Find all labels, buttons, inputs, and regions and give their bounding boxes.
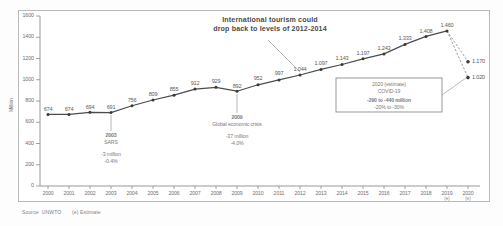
- x-tick-2001: 2001: [58, 191, 80, 197]
- point-label-2004: 756: [119, 97, 145, 103]
- crisis-annotation-year: 2009: [195, 115, 279, 121]
- x-tick-2008: 2008: [205, 191, 227, 197]
- y-axis-label: Million: [9, 98, 15, 112]
- x-tick-2007: 2007: [184, 191, 206, 197]
- estimate-legend-note: (e) Estimate: [72, 210, 101, 216]
- x-tick-2005: 2005: [142, 191, 164, 197]
- point-label-2019: 1.460: [434, 22, 460, 28]
- headline-line-2: drop back to levels of 2012-2014: [190, 26, 350, 34]
- point-label-2020-lower: 1.020: [472, 74, 500, 80]
- x-tick-2014: 2014: [331, 191, 353, 197]
- y-tick-400: 400: [12, 141, 34, 147]
- y-tick-1600: 1600: [12, 13, 34, 19]
- sars-annotation-delta-abs: -3 million: [86, 152, 136, 158]
- x-tick-2017: 2017: [394, 191, 416, 197]
- x-axis-ticks: [48, 186, 468, 189]
- tourism-arrivals-chart: 1600 1400 1200 1000 800 600 400 200 0 Mi…: [0, 0, 503, 226]
- x-tick-2015: 2015: [352, 191, 374, 197]
- projection-line-upper: [447, 31, 468, 62]
- point-label-2003: 691: [98, 104, 124, 110]
- x-tick-2009: 2009: [226, 191, 248, 197]
- x-tick-2003: 2003: [100, 191, 122, 197]
- x-tick-2004: 2004: [121, 191, 143, 197]
- x-tick-2002: 2002: [79, 191, 101, 197]
- covid-callout-delta-abs: -290 to -440 million: [337, 98, 441, 104]
- x-tick-2010: 2010: [247, 191, 269, 197]
- crisis-annotation-event: Global economic crisis: [195, 122, 279, 128]
- point-label-2016: 1.243: [371, 45, 397, 51]
- projection-line-lower: [447, 31, 468, 78]
- sars-annotation-event: SARS: [86, 140, 136, 146]
- y-tick-0: 0: [12, 183, 34, 189]
- covid-leader-line: [442, 78, 466, 95]
- crisis-annotation-delta-abs: -37 million: [195, 134, 279, 140]
- covid-callout-delta-pct: -20% to -30%: [337, 105, 441, 111]
- point-label-2020-upper: 1.170: [472, 58, 500, 64]
- point-label-2012: 1.044: [287, 66, 313, 72]
- sars-annotation-delta-pct: -0.4%: [86, 159, 136, 165]
- y-tick-1000: 1000: [12, 77, 34, 83]
- x-tick-2000: 2000: [37, 191, 59, 197]
- x-tick-2018: 2018: [415, 191, 437, 197]
- y-axis-ticks: [36, 16, 40, 186]
- covid-callout-event: COVID-19: [337, 89, 441, 95]
- point-label-2006: 855: [161, 86, 187, 92]
- x-tick-2012: 2012: [289, 191, 311, 197]
- x-tick-2016: 2016: [373, 191, 395, 197]
- point-label-2017: 1.333: [392, 35, 418, 41]
- source-note: Source UNWTO: [22, 210, 61, 216]
- sars-annotation-year: 2003: [86, 133, 136, 139]
- headline-line-1: International tourism could: [190, 17, 350, 25]
- y-tick-1200: 1200: [12, 56, 34, 62]
- x-tick-2020-estimate-marker: (e): [457, 197, 479, 202]
- x-tick-2006: 2006: [163, 191, 185, 197]
- point-label-2009: 892: [224, 83, 250, 89]
- x-tick-2019-estimate-marker: (e): [436, 197, 458, 202]
- y-tick-800: 800: [12, 98, 34, 104]
- x-tick-2011: 2011: [268, 191, 290, 197]
- covid-callout-title: 2020 (estimate): [337, 82, 441, 88]
- y-tick-200: 200: [12, 162, 34, 168]
- y-tick-1400: 1400: [12, 34, 34, 40]
- y-tick-600: 600: [12, 119, 34, 125]
- point-label-2018: 1.408: [413, 28, 439, 34]
- crisis-annotation-delta-pct: -4.0%: [195, 141, 279, 147]
- x-tick-2013: 2013: [310, 191, 332, 197]
